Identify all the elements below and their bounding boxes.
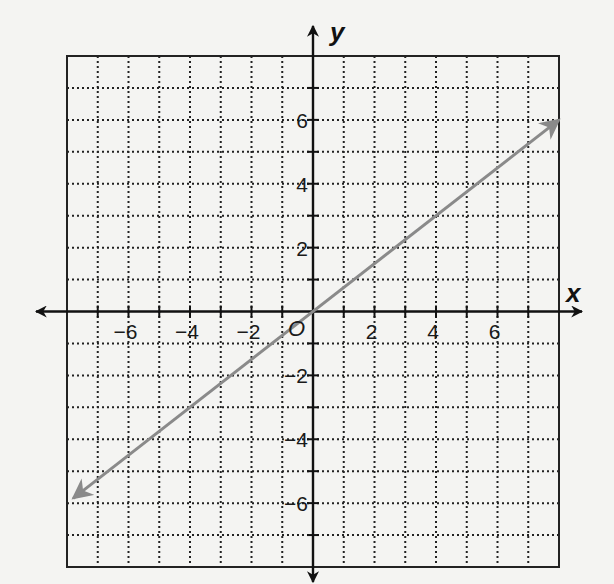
- x-tick-label: 4: [427, 320, 439, 343]
- x-tick-label: 6: [489, 320, 501, 343]
- coordinate-plane: x y O −6−4−2246642−2−4−6: [0, 0, 614, 584]
- labels: x y O −6−4−2246642−2−4−6: [114, 17, 582, 515]
- y-tick-label: −2: [284, 364, 308, 387]
- x-tick-label: 2: [366, 320, 378, 343]
- y-tick-label: 4: [296, 173, 308, 196]
- y-tick-label: 6: [296, 109, 308, 132]
- y-tick-label: −6: [284, 492, 308, 515]
- x-tick-label: −6: [114, 320, 138, 343]
- axes: [36, 26, 582, 582]
- y-tick-label: −4: [284, 428, 308, 451]
- x-axis-label: x: [564, 278, 582, 308]
- x-tick-label: −4: [175, 320, 199, 343]
- y-axis-label: y: [328, 17, 346, 47]
- x-tick-label: −2: [237, 320, 261, 343]
- series: [73, 120, 559, 498]
- origin-label: O: [288, 316, 305, 341]
- y-tick-label: 2: [296, 237, 308, 260]
- series-line: [73, 120, 559, 498]
